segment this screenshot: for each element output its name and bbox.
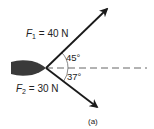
force-label-f1: F1 = 40 N (26, 29, 69, 40)
force-label-f2: F2 = 30 N (16, 84, 59, 95)
force-subscript: 2 (22, 88, 26, 95)
figure-caption: (a) (88, 118, 98, 126)
force-value: = 30 N (29, 83, 59, 94)
force-value: = 40 N (39, 28, 69, 39)
force-diagram (0, 0, 154, 129)
force-subscript: 1 (32, 33, 36, 40)
angle-label-37: 37° (67, 72, 81, 82)
angle-label-45: 45° (66, 53, 80, 63)
object-body (11, 60, 46, 76)
